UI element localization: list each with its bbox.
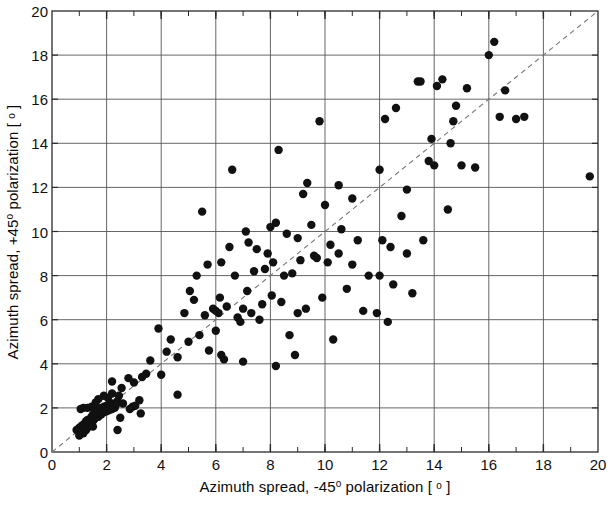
x-tick-label: 2 bbox=[102, 456, 110, 473]
x-tick-label: 14 bbox=[426, 456, 443, 473]
x-tick-label: 0 bbox=[48, 456, 56, 473]
x-tick-label: 16 bbox=[480, 456, 497, 473]
x-axis-tick-labels: 02468101214161820 bbox=[0, 0, 610, 509]
x-tick-label: 8 bbox=[266, 456, 274, 473]
x-tick-label: 12 bbox=[371, 456, 388, 473]
x-tick-label: 20 bbox=[590, 456, 607, 473]
x-tick-label: 18 bbox=[535, 456, 552, 473]
x-tick-label: 6 bbox=[212, 456, 220, 473]
scatter-plot-figure: Azimuth spread, +45o polarization [ o ] … bbox=[0, 0, 610, 509]
x-tick-label: 4 bbox=[157, 456, 165, 473]
x-tick-label: 10 bbox=[317, 456, 334, 473]
